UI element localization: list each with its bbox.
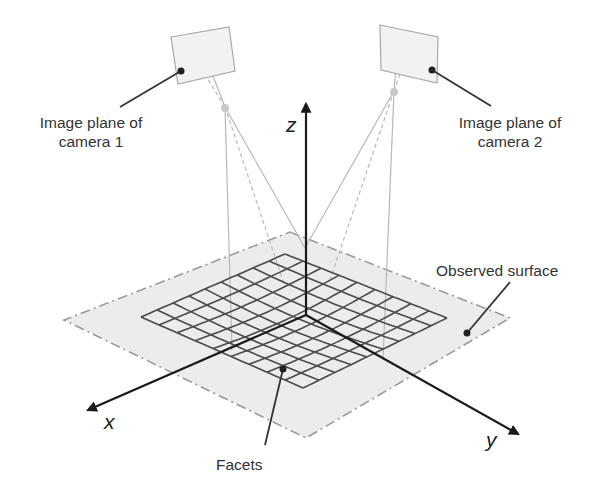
facets-label: Facets xyxy=(216,455,263,474)
camera-1-optical-center-icon xyxy=(221,104,229,112)
stereo-camera-diagram xyxy=(0,0,615,498)
camera-1-label: Image plane of camera 1 xyxy=(16,113,166,151)
z-axis-label: z xyxy=(286,113,297,137)
surface-marker-icon xyxy=(464,330,471,337)
camera-2-label-line2: camera 2 xyxy=(435,132,585,151)
camera-2-marker-icon xyxy=(429,67,436,74)
camera-2-label: Image plane of camera 2 xyxy=(435,113,585,151)
observed-surface-label: Observed surface xyxy=(436,261,558,280)
x-axis-label: x xyxy=(104,410,115,434)
camera-2-image-plane xyxy=(380,25,438,83)
camera-1-label-line1: Image plane of xyxy=(16,113,166,132)
camera-2-label-line1: Image plane of xyxy=(435,113,585,132)
camera-1-marker-icon xyxy=(178,68,185,75)
y-axis-label: y xyxy=(486,428,497,452)
camera-1-image-plane xyxy=(171,27,235,84)
facet-marker-icon xyxy=(280,366,287,373)
camera-2-optical-center-icon xyxy=(390,88,398,96)
camera-1-label-line2: camera 1 xyxy=(16,132,166,151)
